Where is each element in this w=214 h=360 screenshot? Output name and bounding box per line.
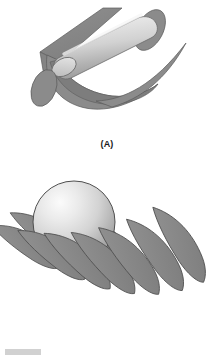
scan-edge-artifact [5,349,41,355]
figure-root: (A) [0,0,214,360]
panel-a-illustration [0,0,214,135]
panel-b-illustration [0,170,214,325]
panel-b: (B) [0,170,214,360]
panel-a-label: (A) [0,139,214,149]
panel-a: (A) [0,0,214,170]
